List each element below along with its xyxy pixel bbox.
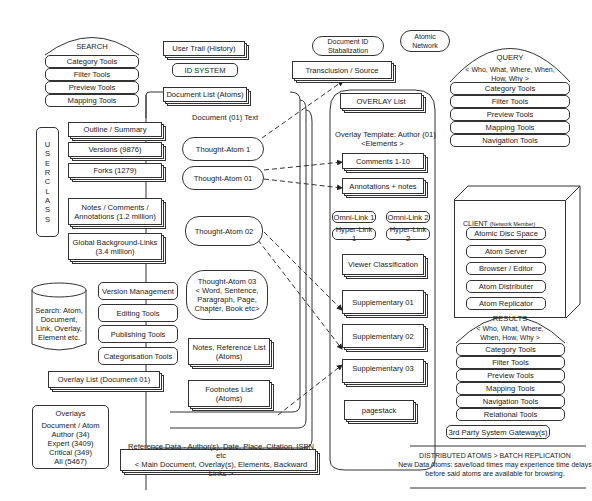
atom-distributer[interactable]: Atom Distributer [466,280,546,293]
overlay-list-box[interactable]: OVERLAY List [340,93,422,109]
query-sub: < Who, What, Where, When,How, Why > [455,65,565,83]
supplementary-03[interactable]: Supplementary 03 [342,359,424,383]
search-database: Search: Atom,Document,Link, Overlay,Elem… [32,306,86,342]
supplementary-01[interactable]: Supplementary 01 [342,290,424,314]
atomic-disc-space[interactable]: Atomic Disc Space [466,227,546,240]
id-system-box[interactable]: ID SYSTEM [172,63,238,77]
user-trail-box[interactable]: User Trail (History) [163,41,245,56]
version-management[interactable]: Version Management [98,282,178,300]
user-class-label: U S E R C L A S S [36,127,59,237]
document-list-box[interactable]: Document List (Atoms) [163,87,247,102]
reference-data: Reference Data - Author(s), Date, Place,… [120,449,316,471]
query-filter-tools[interactable]: Filter Tools [450,95,570,108]
notes-reference-list[interactable]: Notes, Reference List(Atoms) [188,338,270,365]
hyper-link-1[interactable]: Hyper-Link 1 [332,228,376,240]
editing-tools[interactable]: Editing Tools [98,304,178,322]
search-filter-tools[interactable]: Filter Tools [45,68,139,81]
thought-atom-1[interactable]: Thought-Atom 1 [182,137,264,161]
results-navigation-tools[interactable]: Navigation Tools [456,395,565,408]
global-background-links[interactable]: Global Background-Links(3.4 million) [68,233,162,260]
results-title: RESULTS [470,314,550,323]
distributed-atoms-note: DISTRIBUTED ATOMS > BATCH REPLICATIONNew… [398,451,592,478]
search-preview-tools[interactable]: Preview Tools [45,81,139,94]
query-category-tools[interactable]: Category Tools [450,82,570,95]
search-category-tools[interactable]: Category Tools [45,55,139,68]
atomic-network-cloud: Atomic Network [400,30,450,52]
forks[interactable]: Forks (1279) [68,163,162,178]
annotations-box[interactable]: Annotations + notes [342,178,424,194]
browser-editor[interactable]: Browser / Editor [466,262,546,275]
results-category-tools[interactable]: Category Tools [456,343,565,356]
query-mapping-tools[interactable]: Mapping Tools [450,121,570,134]
results-filter-tools[interactable]: Filter Tools [456,356,565,369]
pagestack[interactable]: pagestack [344,400,414,420]
overlays-box: Overlays Document / AtomAuthor (34)Exper… [32,405,109,469]
third-party-gateway[interactable]: 3rd Party System Gateway(s) [446,425,550,439]
results-mapping-tools[interactable]: Mapping Tools [456,382,565,395]
document-title: Document (01) Text [180,113,270,122]
query-preview-tools[interactable]: Preview Tools [450,108,570,121]
categorisation-tools[interactable]: Categorisation Tools [98,347,178,365]
doc-id-stabalization: Document ID Stabalization [312,36,384,56]
omni-link-2[interactable]: Omni-Link 2 [386,211,430,223]
thought-atom-02[interactable]: Thought-Atom 02 [185,216,263,246]
comments-box[interactable]: Comments 1-10 [342,153,424,169]
omni-link-1[interactable]: Omni-Link 1 [332,211,376,223]
overlay-list-document[interactable]: Overlay List (Document 01) [48,371,160,388]
results-preview-tools[interactable]: Preview Tools [456,369,565,382]
query-navigation-tools[interactable]: Navigation Tools [450,134,570,147]
results-relational-tools[interactable]: Relational Tools [456,408,565,421]
atom-server[interactable]: Atom Server [466,245,546,258]
hyper-link-2[interactable]: Hyper-Link 2 [386,228,430,240]
overlay-template: Overlay Template: Author (01)<Elements > [335,130,430,148]
versions[interactable]: Versions (9876) [68,142,162,157]
transclusion-source-box[interactable]: Transclusion / Source [292,61,392,79]
footnotes-list[interactable]: Footnotes List(Atoms) [188,380,270,407]
thought-atom-01[interactable]: Thought-Atom 01 [182,166,264,190]
outline-summary[interactable]: Outline / Summary [68,122,162,137]
query-title: QUERY [470,53,550,62]
viewer-classification[interactable]: Viewer Classification [342,254,424,275]
supplementary-02[interactable]: Supplementary 02 [342,324,424,348]
thought-atom-03[interactable]: Thought-Atom 03< Word, Sentence,Paragrap… [186,270,268,320]
search-title: SEARCH [65,42,119,51]
atom-replicator[interactable]: Atom Replicator [466,297,546,310]
search-mapping-tools[interactable]: Mapping Tools [45,94,139,107]
notes-comments-annotations[interactable]: Notes / Comments /Annotations (1.2 milli… [68,198,162,225]
publishing-tools[interactable]: Publishing Tools [98,325,178,343]
results-sub: < Who, What, Where,When, How, Why > [455,324,565,342]
